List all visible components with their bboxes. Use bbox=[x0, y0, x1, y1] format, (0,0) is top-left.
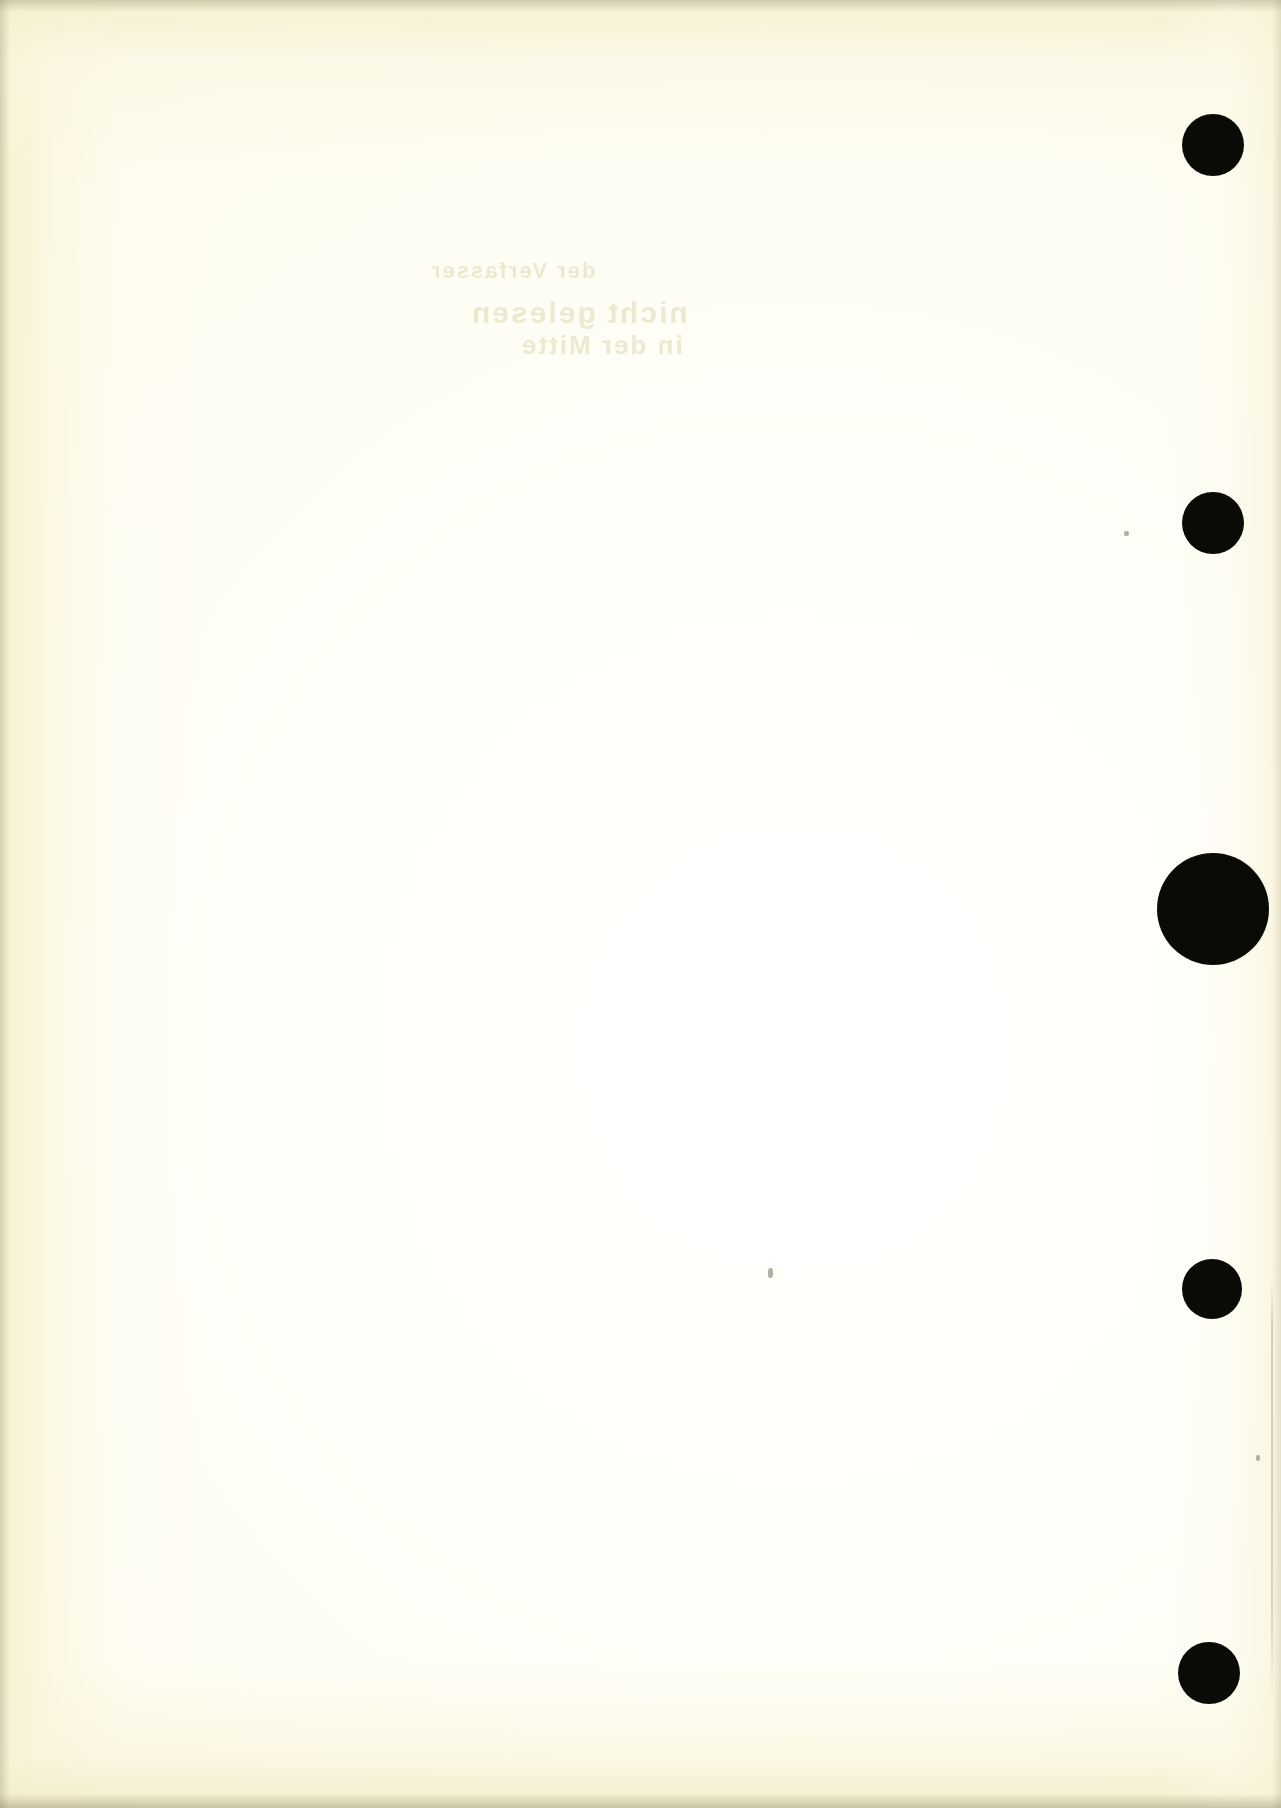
speck-left-of-dot-2 bbox=[1124, 531, 1129, 536]
scan-edge-left bbox=[0, 0, 10, 1808]
scan-edge-right bbox=[1272, 0, 1281, 1808]
register-dot-2 bbox=[1182, 492, 1244, 554]
scanned-page: der Verfassernicht gelesenin der Mitte bbox=[0, 0, 1281, 1808]
speck-mid-page bbox=[768, 1268, 773, 1278]
register-dot-1 bbox=[1182, 114, 1244, 176]
scan-edge-bottom bbox=[0, 1794, 1281, 1808]
paper-tint-bottom bbox=[0, 1658, 1281, 1808]
scan-edge-top bbox=[0, 0, 1281, 12]
register-dot-4 bbox=[1182, 1259, 1242, 1319]
register-dot-5 bbox=[1178, 1642, 1240, 1704]
page-edge-seam bbox=[1271, 1278, 1273, 1698]
paper-tint-left bbox=[0, 0, 210, 1808]
paper-tint-top bbox=[0, 0, 1281, 180]
register-dot-3 bbox=[1157, 853, 1269, 965]
speck-lower-right bbox=[1256, 1455, 1260, 1461]
